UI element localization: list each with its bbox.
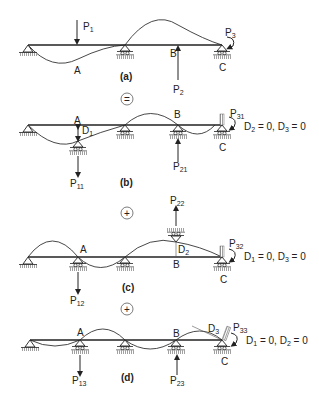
load-label: P3 [225,27,236,39]
panel-caption: (b) [120,177,133,188]
fixed-clamp-icon [220,246,224,257]
pin-support-icon [21,340,39,351]
load-label: P22 [170,195,185,207]
load-label: P23 [170,375,185,387]
boundary-condition: D2 = 0, D3 = 0 [244,121,306,133]
point-label-b: B [170,48,177,59]
panel-b: D1 P11 P21 P31 A B C (b) D2 = 0, D3 = 0 [19,108,306,190]
point-label-c: C [220,274,227,285]
boundary-condition: D1 = 0, D3 = 0 [244,251,306,263]
point-label-b: B [173,259,180,270]
roller-support-icon [167,228,185,242]
equals-operator: = [121,93,133,105]
boundary-condition: D1 = 0, D2 = 0 [246,335,308,347]
load-label: P2 [173,84,184,96]
load-label: P32 [229,238,244,250]
point-label-a: A [77,327,84,338]
roller-support-icon [167,340,185,354]
point-label-a: A [74,65,81,76]
point-label-c: C [219,142,226,153]
panel-caption: (a) [120,71,132,82]
point-label-a: A [80,244,87,255]
rotation-label: D3 [208,323,219,335]
load-label: P11 [70,178,84,190]
plus-operator: + [121,303,133,315]
pin-support-icon [19,257,37,268]
roller-support-icon [169,125,187,139]
plus-operator: + [121,207,133,219]
superposition-diagram: P1 P2 P3 A B C (a) = D1 P11 P21 P31 A B … [0,0,319,403]
displacement-label: D2 [178,244,189,256]
panel-d: D3 P13 P23 P33 A B C (d) D1 = 0, D2 = 0 [21,322,308,387]
roller-support-icon [69,257,87,271]
load-label: P1 [83,21,94,33]
load-label: P12 [70,295,85,307]
roller-support-icon [213,45,231,59]
fixed-clamp-icon [220,114,224,125]
load-label: P13 [72,375,87,387]
roller-support-icon [71,340,89,354]
point-label-c: C [219,62,226,73]
svg-text:+: + [124,208,130,219]
roller-support-icon [116,257,134,271]
roller-support-icon [213,257,231,271]
load-label: P21 [173,161,188,173]
moment-arrow-icon [231,333,237,345]
panel-caption: (d) [121,372,134,383]
panel-a: P1 P2 P3 A B C (a) [19,20,236,96]
point-label-b: B [174,109,181,120]
svg-text:=: = [124,94,130,105]
load-label: P31 [230,108,245,120]
rotated-clamp-icon [222,326,231,341]
point-label-c: C [221,356,228,367]
roller-support-icon [213,340,231,354]
roller-support-icon [213,125,231,139]
panel-caption: (c) [122,282,134,293]
roller-support-icon [116,45,134,59]
load-label: P33 [233,322,248,334]
point-label-b: B [173,328,180,339]
moment-arrow-icon [229,249,235,261]
svg-text:+: + [124,304,130,315]
roller-support-icon [116,340,134,354]
pin-support-icon [19,45,37,56]
point-label-a: A [74,115,81,126]
displacement-label: D1 [82,125,93,137]
panel-c: D2 P12 P22 P32 A B C (c) D1 = 0, D3 = 0 [19,195,306,307]
